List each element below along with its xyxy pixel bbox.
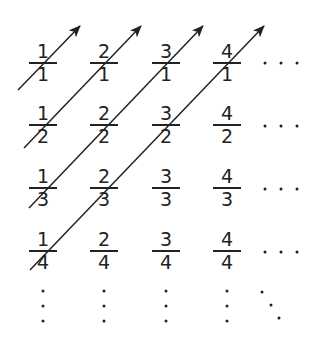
diagonal-arrow-4 (30, 26, 264, 270)
rational-enumeration-diagram: 1 1 2 1 3 1 4 1 1 2 2 2 3 2 4 2 1 3 (0, 0, 318, 345)
diagonal-arrow-1 (18, 26, 80, 90)
vertical-ellipsis-col-4 (226, 290, 229, 323)
diagonal-arrows-layer (0, 0, 318, 345)
vertical-ellipsis-col-3 (165, 290, 168, 323)
horizontal-ellipsis-row-4 (264, 251, 299, 254)
horizontal-ellipsis-row-1 (264, 62, 299, 65)
diagonal-arrow-2 (24, 26, 141, 148)
vertical-ellipsis-col-1 (42, 290, 45, 323)
vertical-ellipsis-col-2 (103, 290, 106, 323)
horizontal-ellipsis-row-2 (264, 125, 299, 128)
diagonal-ellipsis (261, 291, 281, 320)
horizontal-ellipsis-row-3 (264, 188, 299, 191)
